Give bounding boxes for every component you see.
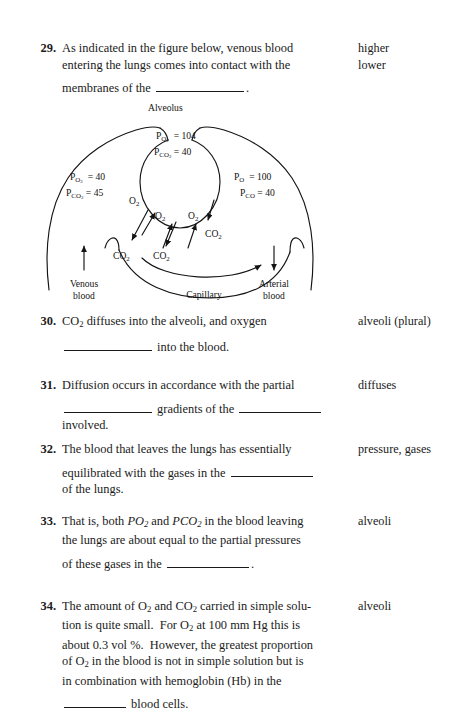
answer-column-34: alveoli xyxy=(358,598,458,615)
arterial-po-label: PO = 100 xyxy=(234,171,271,185)
capillary-end-left xyxy=(105,238,119,250)
arterial-blood-label-line2: blood xyxy=(246,290,302,302)
question-number-29: 29. xyxy=(30,40,56,57)
question-29-line-2: entering the lungs comes into contact wi… xyxy=(62,57,340,74)
co2-label-3: CO2 xyxy=(153,250,170,264)
answer-column-31: diffuses xyxy=(358,377,458,394)
alveolus-po2-label: PO2 = 104 xyxy=(156,130,196,146)
o2-arrow-1 xyxy=(142,213,155,235)
co2-label-1: CO2 xyxy=(205,228,222,242)
question-31-line-2: gradients of the xyxy=(62,401,340,418)
question-30-line-1: CO2 diffuses into the alveoli, and oxyge… xyxy=(62,313,340,332)
question-34-line-1: The amount of O2 and CO2 carried in simp… xyxy=(62,598,340,617)
o2-arrow-3 xyxy=(188,224,196,248)
alveolus-pco2-label: PCO2 = 40 xyxy=(154,146,191,162)
answer-30-1: alveoli (plural) xyxy=(358,313,458,330)
question-31-line-1: Diffusion occurs in accordance with the … xyxy=(62,377,340,394)
question-34-line-5: in combination with hemoglobin (Hb) in t… xyxy=(62,673,340,690)
question-number-33: 33. xyxy=(30,513,56,530)
question-33-line-3: of these gases in the . xyxy=(62,556,340,573)
question-30-line-2: into the blood. xyxy=(62,339,340,356)
question-33-line-2: the lungs are about equal to the partial… xyxy=(62,532,340,549)
o2-label-3: O2 xyxy=(188,210,198,224)
answer-33-1: alveoli xyxy=(358,513,458,530)
answer-29-1: higher xyxy=(358,40,458,57)
question-34-line-4: of O2 in the blood is not in simple solu… xyxy=(62,653,340,672)
question-31-line-3: involved. xyxy=(62,417,340,434)
question-text-29: As indicated in the figure below, venous… xyxy=(62,40,340,97)
co2-arrow-3 xyxy=(208,200,214,220)
blank-34-1[interactable] xyxy=(64,697,126,709)
question-number-34: 34. xyxy=(30,598,56,615)
answer-34-1: alveoli xyxy=(358,598,458,615)
blank-31-2[interactable] xyxy=(239,401,321,413)
alveolus-title-label: Alveolus xyxy=(148,102,183,114)
venous-pco2-label: PCO2 = 45 xyxy=(66,187,103,203)
blank-31-1[interactable] xyxy=(64,401,152,413)
answer-column-33: alveoli xyxy=(358,513,458,530)
answer-32-1: pressure, gases xyxy=(358,441,458,458)
question-29-line-1: As indicated in the figure below, venous… xyxy=(62,40,340,57)
question-32-line-1: The blood that leaves the lungs has esse… xyxy=(62,441,340,458)
o2-label-1: O2 xyxy=(129,195,139,209)
question-number-32: 32. xyxy=(30,441,56,458)
lung-outline-right xyxy=(200,127,313,290)
answer-column-29: higher lower xyxy=(358,40,458,73)
question-text-34: The amount of O2 and CO2 carried in simp… xyxy=(62,598,340,712)
blank-29-1[interactable] xyxy=(156,80,244,92)
question-33-line-1: That is, both PO2 and PCO2 in the blood … xyxy=(62,513,340,532)
capillary-end-right xyxy=(290,238,304,252)
venous-blood-label-line2: blood xyxy=(56,290,112,302)
arterial-blood-label-line1: Arterial xyxy=(246,278,302,290)
question-34-line-3: about 0.3 vol %. However, the greatest p… xyxy=(62,637,340,654)
arterial-pco-label: PCO = 40 xyxy=(240,187,275,201)
question-text-30: CO2 diffuses into the alveoli, and oxyge… xyxy=(62,313,340,356)
answer-31-1: diffuses xyxy=(358,377,458,394)
co2-arrow-1 xyxy=(132,210,148,240)
capillary-label: Capillary xyxy=(174,289,234,301)
question-number-30: 30. xyxy=(30,313,56,330)
question-text-32: The blood that leaves the lungs has esse… xyxy=(62,441,340,498)
question-32-line-2: equilibrated with the gases in the xyxy=(62,465,340,482)
lung-outline-left xyxy=(47,127,160,290)
question-text-33: That is, both PO2 and PCO2 in the blood … xyxy=(62,513,340,572)
venous-blood-label-line1: Venous xyxy=(56,278,112,290)
o2-label-2: O2 xyxy=(155,210,165,224)
blank-32-1[interactable] xyxy=(231,465,313,477)
answer-column-30: alveoli (plural) xyxy=(358,313,458,330)
answer-column-32: pressure, gases xyxy=(358,441,458,458)
question-number-31: 31. xyxy=(30,377,56,394)
answer-29-2: lower xyxy=(358,57,458,74)
question-34-line-6: blood cells. xyxy=(62,696,340,712)
venous-po2-label: PO2 = 40 xyxy=(70,171,105,187)
question-29-line-3: membranes of the . xyxy=(62,80,340,97)
blank-30-1[interactable] xyxy=(64,340,152,352)
question-32-line-3: of the lungs. xyxy=(62,481,340,498)
question-34-line-2: tion is quite small. For O2 at 100 mm Hg… xyxy=(62,617,340,636)
blank-33-1[interactable] xyxy=(167,556,249,568)
co2-label-2: CO2 xyxy=(113,250,130,264)
alveolus-gas-exchange-figure: Alveolus PO2 = 104 PCO2 = 40 PO2 = 40 PC… xyxy=(24,100,336,305)
question-text-31: Diffusion occurs in accordance with the … xyxy=(62,377,340,434)
